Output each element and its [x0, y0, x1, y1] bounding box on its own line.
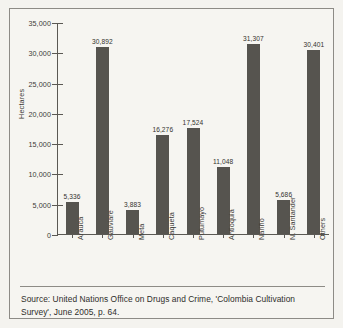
x-axis-category-label: Putumayo	[197, 207, 206, 240]
x-axis-tick	[253, 234, 254, 238]
x-axis-tick	[193, 234, 194, 238]
y-axis-tick-inner	[58, 84, 63, 85]
bar	[307, 50, 320, 234]
x-axis-tick	[133, 234, 134, 238]
x-axis-category-label: Arauca	[76, 217, 85, 240]
y-axis-tick-label: 30,000	[28, 49, 51, 58]
bar-value-label: 16,276	[152, 126, 173, 133]
bar-column: 31,307	[238, 44, 268, 234]
figure-page: Hectares 35,00030,00025,00020,00015,0001…	[0, 0, 343, 328]
bar-value-label: 30,401	[303, 41, 324, 48]
x-axis-category-label: Caqueta	[167, 212, 176, 240]
y-axis-title: Hectares	[17, 89, 26, 119]
x-axis-category-label: Meta	[137, 224, 146, 240]
y-axis-tick-inner	[58, 144, 63, 145]
y-axis-tick-label: 25,000	[28, 79, 51, 88]
source-caption: Source: United Nations Office on Drugs a…	[21, 293, 325, 318]
x-axis-tick	[72, 234, 73, 238]
bar-chart-plot-area: Hectares 35,00030,00025,00020,00015,0001…	[57, 23, 329, 235]
y-axis-tick-inner	[58, 114, 63, 115]
y-axis-tick-label: 35,000	[28, 19, 51, 28]
y-axis-tick-inner	[58, 53, 63, 54]
y-axis-tick-inner	[58, 23, 63, 24]
x-axis-category-label: Antioquia	[227, 209, 236, 240]
x-axis-category-label: Nariño	[257, 218, 266, 240]
y-axis-tick-label: 10,000	[28, 170, 51, 179]
bar-value-label: 11,048	[213, 158, 233, 165]
caption-divider	[20, 286, 325, 287]
y-axis-tick	[52, 235, 58, 236]
x-axis-category-label: Gauviare	[106, 210, 115, 240]
x-axis-tick	[314, 234, 315, 238]
bar	[96, 47, 109, 234]
y-axis-tick-label: 0	[47, 231, 51, 240]
y-axis-tick-label: 20,000	[28, 109, 51, 118]
bar-value-label: 3,883	[124, 201, 141, 208]
bar-value-label: 5,336	[64, 193, 81, 200]
x-axis-category-label: N. Santander	[288, 196, 297, 240]
x-axis-tick	[102, 234, 103, 238]
bar-column: 30,892	[87, 47, 117, 234]
bar	[247, 44, 260, 234]
figure-border: Hectares 35,00030,00025,00020,00015,0001…	[9, 8, 334, 319]
x-axis-tick	[223, 234, 224, 238]
bar-value-label: 30,892	[92, 38, 113, 45]
x-axis-tick	[284, 234, 285, 238]
bar-column: 30,401	[299, 50, 329, 234]
y-axis-tick-label: 5,000	[33, 200, 52, 209]
bar-value-label: 31,307	[243, 35, 264, 42]
y-axis-tick-label: 15,000	[28, 140, 51, 149]
bar-value-label: 17,524	[183, 119, 204, 126]
x-axis-tick	[163, 234, 164, 238]
y-axis-tick-inner	[58, 174, 63, 175]
x-axis-category-label: Others	[318, 218, 327, 240]
